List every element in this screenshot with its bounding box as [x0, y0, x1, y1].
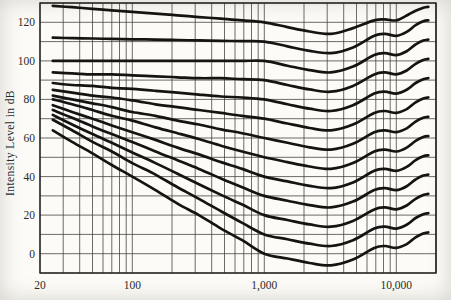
contour-curve-contour-11 — [53, 40, 429, 73]
contour-curve-contour-13 — [53, 6, 429, 34]
contour-curve-contour-2 — [53, 120, 429, 246]
contour-curve-contour-5 — [53, 105, 429, 188]
y-tick-label: 40 — [24, 171, 36, 183]
y-tick-label: 0 — [29, 248, 35, 260]
x-tick-label: 100 — [124, 279, 142, 291]
equal-loudness-chart-canvas: 201001,00010,000020406080100120 — [0, 0, 451, 300]
y-tick-label: 120 — [18, 16, 36, 28]
contour-curves — [53, 6, 429, 266]
x-tick-label: 10,000 — [380, 279, 412, 292]
x-tick-labels: 201001,00010,000 — [34, 279, 412, 292]
equal-loudness-contours-figure: Intensity Level in dB 201001,00010,00002… — [0, 0, 451, 300]
y-tick-labels: 020406080100120 — [18, 16, 36, 259]
y-axis-title: Intensity Level in dB — [4, 90, 16, 196]
y-tick-label: 80 — [24, 93, 36, 105]
y-tick-label: 60 — [24, 132, 36, 144]
x-tick-label: 20 — [34, 279, 46, 291]
contour-curve-contour-12 — [53, 20, 429, 53]
x-tick-label: 1,000 — [251, 279, 277, 292]
y-tick-label: 20 — [24, 209, 36, 221]
y-tick-label: 100 — [18, 55, 36, 67]
